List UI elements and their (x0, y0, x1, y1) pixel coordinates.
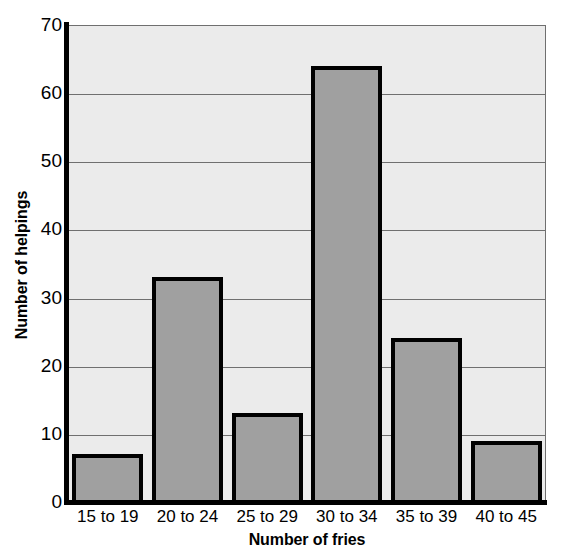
y-tick-label: 20 (18, 356, 62, 375)
y-axis-tick-labels: 70 60 50 40 30 20 10 0 (14, 0, 62, 559)
bar (391, 338, 462, 502)
bars (68, 26, 545, 502)
y-tick-label: 40 (18, 219, 62, 238)
bar (232, 413, 303, 502)
x-tick-label: 35 to 39 (387, 506, 467, 528)
x-tick-label: 40 to 45 (466, 506, 546, 528)
y-tick-label: 70 (18, 15, 62, 34)
x-tick-label: 20 to 24 (148, 506, 228, 528)
bar-chart: Number of helpings 70 60 50 40 30 20 10 … (0, 0, 562, 559)
y-tick-label: 10 (18, 424, 62, 443)
y-axis-line (64, 22, 69, 505)
x-tick-label: 15 to 19 (68, 506, 148, 528)
x-tick-label: 30 to 34 (307, 506, 387, 528)
bar (471, 441, 542, 502)
bar (152, 277, 223, 502)
x-axis-tick-labels: 15 to 1920 to 2425 to 2930 to 3435 to 39… (68, 506, 546, 532)
x-axis-line (64, 500, 547, 505)
bar (311, 66, 382, 502)
plot-area (68, 25, 546, 502)
y-tick-label: 50 (18, 151, 62, 170)
y-tick-label: 60 (18, 83, 62, 102)
y-tick-label: 30 (18, 288, 62, 307)
x-axis-title: Number of fries (68, 531, 546, 549)
bar (72, 454, 143, 502)
y-tick-label: 0 (18, 492, 62, 511)
x-tick-label: 25 to 29 (227, 506, 307, 528)
